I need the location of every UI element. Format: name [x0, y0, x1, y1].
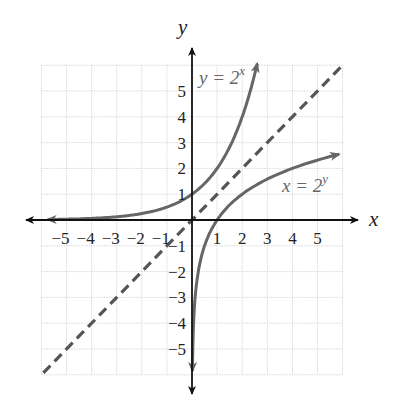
y-tick-label: −4	[168, 314, 187, 333]
y-tick-label: 2	[178, 159, 187, 178]
eq1-base: y = 2	[197, 67, 240, 88]
eq2-base: x = 2	[281, 175, 323, 196]
equation-label-exp: y = 2x	[197, 63, 245, 88]
y-tick-label: −1	[168, 237, 186, 256]
axes	[26, 48, 358, 394]
curves	[43, 64, 342, 373]
y-tick-label: −2	[168, 263, 186, 282]
y-tick-label: 5	[178, 82, 187, 101]
y-axis-label: y	[176, 15, 188, 39]
x-tick-label: 1	[213, 229, 222, 248]
eq1-exponent: x	[238, 63, 245, 78]
y-tick-label: −3	[168, 288, 186, 307]
y-tick-label: 1	[178, 185, 187, 204]
x-tick-label: −3	[102, 229, 120, 248]
x-tick-label: −5	[51, 229, 69, 248]
x-tick-label: 3	[263, 229, 272, 248]
graph: −5−4−3−2−11234554321−1−2−3−4−5 x y y = 2…	[0, 0, 401, 411]
x-tick-label: 5	[313, 229, 322, 248]
x-tick-label: 2	[238, 229, 247, 248]
y-tick-label: −5	[168, 340, 186, 359]
x-tick-label: 4	[288, 229, 297, 248]
x-tick-label: −4	[77, 229, 96, 248]
equation-label-log: x = 2y	[281, 171, 328, 196]
x-axis-label: x	[368, 207, 379, 231]
eq2-exponent: y	[320, 171, 328, 186]
x-tick-label: −2	[127, 229, 145, 248]
y-tick-label: 3	[178, 134, 187, 153]
y-tick-label: 4	[178, 108, 187, 127]
